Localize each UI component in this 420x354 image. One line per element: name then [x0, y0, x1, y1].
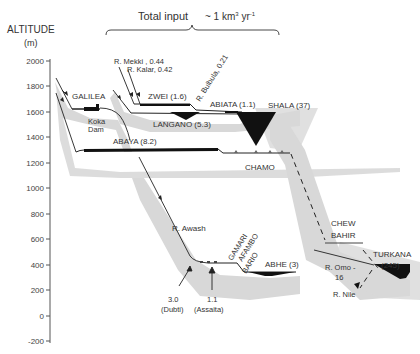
label-chew: CHEW	[331, 219, 356, 228]
axis-unit: (m)	[24, 38, 38, 48]
label-abhe: ABHE (3)	[265, 260, 299, 269]
terrain-shading	[55, 82, 420, 300]
label-koka-dam: Dam	[88, 125, 104, 134]
label-dubti-name: (Dubti)	[161, 305, 184, 314]
label-bulbula: R. Bulbula, 0.21	[194, 53, 230, 103]
label-chamo: CHAMO	[245, 163, 275, 172]
svg-text:800: 800	[31, 210, 45, 219]
label-omo-flow: 16	[335, 273, 343, 282]
label-turkana: TURKANA	[373, 250, 412, 259]
rift-lakes-altitude-diagram: Total input ~ 1 km3 yr-1 ALTITUDE (m) 20…	[0, 0, 420, 354]
svg-text:-200: -200	[28, 337, 45, 346]
svg-text:0: 0	[40, 312, 45, 321]
svg-text:2000: 2000	[26, 57, 44, 66]
y-axis-ticks	[46, 61, 50, 341]
label-assaita-name: (Assaita)	[194, 305, 224, 314]
svg-text:200: 200	[31, 286, 45, 295]
y-axis-tick-labels: 2000 1800 1600 1400 1200 1000 800 600 40…	[26, 57, 44, 346]
lake-galilea	[72, 104, 100, 111]
label-langano: LANGANO (5.3)	[153, 120, 211, 129]
label-dubti-value: 3.0	[168, 295, 178, 304]
svg-text:1600: 1600	[26, 108, 44, 117]
total-input-value: ~ 1 km3 yr-1	[205, 11, 256, 22]
label-zwei: ZWEI (1.6)	[148, 92, 187, 101]
label-awash: R. Awash	[172, 224, 206, 233]
svg-text:600: 600	[31, 235, 45, 244]
label-abaya: ABAYA (8.2)	[113, 137, 157, 146]
label-nile: R. Nile	[333, 290, 356, 299]
label-bahir: BAHIR	[331, 231, 356, 240]
svg-text:1200: 1200	[26, 159, 44, 168]
svg-text:400: 400	[31, 261, 45, 270]
lake-abaya-chamo	[76, 148, 290, 153]
total-input-label: Total input	[138, 10, 188, 22]
svg-text:1000: 1000	[26, 184, 44, 193]
label-abiata: ABIATA (1.1)	[210, 100, 256, 109]
label-assaita-value: 1.1	[207, 295, 217, 304]
axis-title: ALTITUDE	[7, 24, 55, 35]
total-input-brace	[106, 25, 279, 35]
label-omo: R. Omo -	[325, 263, 356, 272]
label-shala: SHALA (37)	[268, 101, 311, 110]
label-turkana-vol: (245)	[381, 261, 400, 270]
svg-text:1400: 1400	[26, 133, 44, 142]
svg-text:1800: 1800	[26, 82, 44, 91]
label-kalar: R. Kalar, 0.42	[127, 65, 172, 74]
label-galilea: GALILEA	[72, 92, 106, 101]
